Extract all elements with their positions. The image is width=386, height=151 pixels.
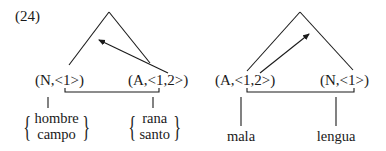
- right-tree-left-node: (A,<1,2>): [215, 72, 275, 88]
- left-tree-right-node: (A,<1,2>): [128, 72, 188, 88]
- left-tree-bracket: [65, 88, 159, 92]
- right-tree-arrow: [260, 34, 309, 73]
- word-item: hombre: [34, 110, 78, 126]
- word-item: campo: [37, 126, 76, 142]
- right-brace: }: [173, 111, 181, 141]
- word-item: rana: [142, 110, 167, 126]
- syntax-diagram: (24) (N,<: [0, 0, 386, 151]
- word-item: santo: [139, 126, 170, 142]
- left-tree-arrow: [99, 40, 168, 73]
- left-tree-left-node: (N,<1>): [35, 72, 84, 88]
- right-brace: }: [82, 111, 90, 141]
- left-brace: {: [23, 111, 31, 141]
- left-tree-left-words: { hombre campo }: [20, 110, 93, 142]
- right-tree-bracket: [247, 88, 354, 92]
- right-tree-right-node: (N,<1>): [320, 72, 369, 88]
- right-tree-right-word: lengua: [306, 128, 366, 144]
- right-tree-left-word: mala: [221, 128, 261, 144]
- left-tree-branches: [69, 12, 150, 65]
- left-brace: {: [128, 111, 136, 141]
- left-tree-right-words: { rana santo }: [125, 110, 184, 142]
